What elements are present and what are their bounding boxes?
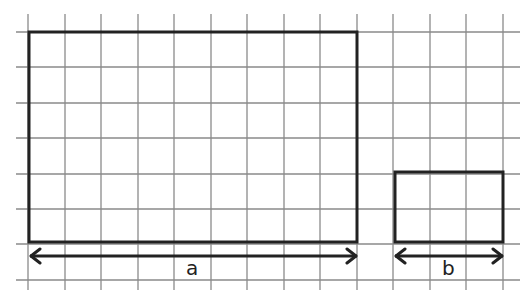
rectangle-small (395, 172, 503, 242)
label-b: b (442, 258, 455, 278)
label-a: a (186, 258, 198, 278)
grid-diagram (0, 0, 528, 294)
rectangle-large (29, 32, 357, 242)
